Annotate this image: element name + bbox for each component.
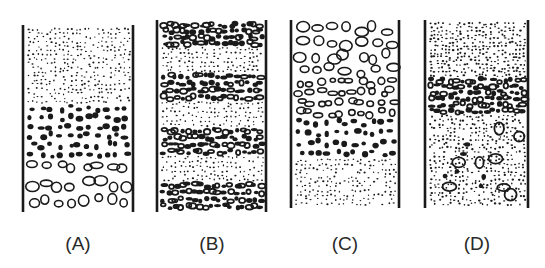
grain <box>428 82 433 88</box>
grain <box>210 111 212 113</box>
grain <box>479 184 484 188</box>
grain <box>209 117 211 118</box>
grain <box>105 58 107 60</box>
column-b-label: (B) <box>199 233 224 254</box>
grain <box>253 121 254 122</box>
grain <box>256 179 258 180</box>
grain <box>209 178 211 180</box>
grain <box>466 168 468 170</box>
grain <box>449 202 451 204</box>
grain <box>434 175 436 177</box>
grain <box>111 92 113 94</box>
grain <box>503 68 505 70</box>
grain <box>382 48 390 58</box>
grain <box>522 90 527 95</box>
grain <box>128 59 130 61</box>
grain <box>180 52 182 54</box>
grain <box>239 65 241 66</box>
grain <box>97 154 102 159</box>
grain <box>335 199 337 201</box>
grain <box>55 45 57 47</box>
grain <box>433 142 435 144</box>
grain <box>305 189 307 191</box>
grain <box>213 166 215 168</box>
grain <box>120 54 122 55</box>
grain <box>507 60 510 61</box>
grain <box>85 51 87 52</box>
grain <box>184 42 191 47</box>
grain <box>208 150 214 153</box>
grain <box>183 114 185 116</box>
grain <box>75 79 77 81</box>
grain <box>72 62 74 64</box>
grain <box>506 164 508 166</box>
grain <box>59 49 61 50</box>
grain <box>193 124 194 126</box>
grain <box>255 117 257 118</box>
grain <box>261 165 263 166</box>
grain <box>28 75 30 76</box>
grain <box>214 108 215 110</box>
grain <box>106 64 108 65</box>
grain <box>475 75 477 77</box>
grain <box>111 59 113 60</box>
grain <box>213 170 215 171</box>
grain <box>471 158 473 159</box>
grain <box>467 48 470 49</box>
grain <box>221 171 223 173</box>
grain <box>511 37 513 39</box>
grain <box>159 190 165 194</box>
grain <box>359 190 361 192</box>
grain <box>101 45 103 47</box>
grain <box>37 96 39 97</box>
grain <box>507 152 509 153</box>
grain <box>389 173 391 175</box>
grain <box>240 58 242 59</box>
grain <box>68 133 74 137</box>
grain <box>482 139 483 141</box>
grain <box>176 115 178 117</box>
grain <box>185 48 187 50</box>
grain <box>102 61 104 63</box>
grain <box>483 122 485 124</box>
grain <box>429 138 431 140</box>
grain <box>202 169 203 171</box>
grain <box>201 61 203 63</box>
grain <box>244 70 246 72</box>
grain <box>443 143 445 145</box>
grain <box>438 156 440 157</box>
grain <box>486 90 491 95</box>
grain <box>248 117 250 118</box>
grain <box>227 61 229 63</box>
grain <box>190 87 196 91</box>
grain <box>482 203 483 205</box>
grain <box>180 171 182 173</box>
grain <box>442 147 444 149</box>
grain <box>82 97 83 98</box>
grain <box>178 124 180 125</box>
grain <box>524 152 526 154</box>
grain <box>490 33 492 34</box>
grain <box>84 42 86 43</box>
grain <box>227 183 233 187</box>
grain <box>262 121 264 123</box>
grain <box>381 160 383 161</box>
grain <box>447 119 448 121</box>
grain <box>234 175 236 177</box>
grain <box>246 198 252 203</box>
grain <box>65 183 74 190</box>
grain <box>472 42 474 44</box>
grain <box>479 202 482 204</box>
grain <box>463 37 465 39</box>
grain <box>76 32 77 34</box>
grain <box>221 161 223 162</box>
grain <box>208 80 214 85</box>
sediment-layer-fine-mixed-with-scattered-coarse <box>429 114 526 206</box>
grain <box>98 88 100 90</box>
grain <box>304 185 306 186</box>
grain <box>335 183 337 185</box>
grain <box>312 25 323 31</box>
grain <box>119 80 120 81</box>
grain <box>459 180 461 182</box>
grain <box>493 74 496 76</box>
